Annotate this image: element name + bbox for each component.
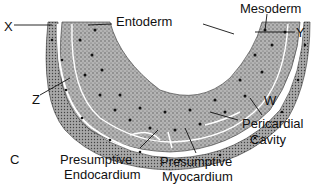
y-label: Y xyxy=(296,26,305,39)
myocardium-label-line1: Presumptive xyxy=(160,155,232,168)
pericardial-cavity-label-line2: Cavity xyxy=(250,133,286,146)
myocardium-label-line2: Myocardium xyxy=(162,170,233,183)
w-label: W xyxy=(264,94,276,107)
endocardium-label-line2: Endocardium xyxy=(64,168,141,181)
x-label: X xyxy=(4,20,13,33)
panel-letter: C xyxy=(10,153,19,166)
endocardium-label-line1: Presumptive xyxy=(60,153,132,166)
z-label: Z xyxy=(32,93,40,106)
mesoderm-label: Mesoderm xyxy=(240,2,301,15)
embryo-cross-section-diagram: Entoderm Mesoderm X Y Z W Pericardial Ca… xyxy=(0,0,316,187)
pericardial-cavity-label-line1: Pericardial xyxy=(242,117,303,130)
entoderm-label: Entoderm xyxy=(116,15,172,28)
